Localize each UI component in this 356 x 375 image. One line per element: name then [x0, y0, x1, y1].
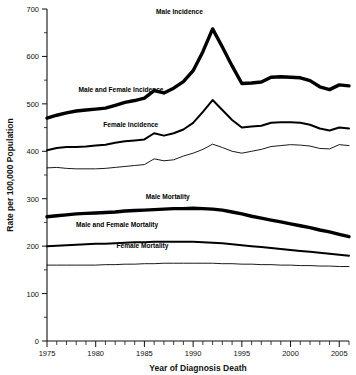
y-tick-label: 400: [26, 147, 39, 156]
series-label-male-and-female-incidence: Male and Female Incidence: [79, 86, 164, 93]
chart-container: 0100200300400500600700197519801985199019…: [0, 0, 356, 375]
series-line-female-mortality: [47, 263, 349, 266]
series-label-female-incidence: Female Incidence: [103, 121, 158, 128]
line-chart: 0100200300400500600700197519801985199019…: [0, 0, 356, 375]
x-tick-label: 1975: [39, 349, 56, 358]
series-label-male-and-female-mortality: Male and Female Mortality: [76, 221, 158, 229]
series-line-male-incidence: [47, 29, 349, 118]
x-axis-title: Year of Diagnosis Death: [149, 363, 246, 373]
y-tick-label: 0: [35, 337, 39, 346]
y-tick-label: 100: [26, 290, 39, 299]
y-tick-label: 700: [26, 5, 39, 14]
series-label-female-mortality: Female Mortality: [116, 242, 168, 250]
series-line-male-and-female-incidence: [47, 100, 349, 150]
x-tick-label: 1990: [185, 349, 202, 358]
y-tick-label: 600: [26, 52, 39, 61]
x-tick-label: 1980: [87, 349, 104, 358]
x-tick-label: 2000: [282, 349, 299, 358]
series-line-male-and-female-mortality: [47, 242, 349, 256]
series-line-female-incidence: [47, 144, 349, 169]
x-tick-label: 1985: [136, 349, 153, 358]
y-tick-label: 200: [26, 242, 39, 251]
series-label-male-mortality: Male Mortality: [146, 193, 190, 201]
x-tick-label: 2005: [331, 349, 348, 358]
y-axis-title: Rate per 100,000 Population: [5, 118, 15, 231]
y-tick-label: 300: [26, 195, 39, 204]
x-tick-label: 1995: [233, 349, 250, 358]
y-tick-label: 500: [26, 100, 39, 109]
series-label-male-incidence: Male Incidence: [156, 8, 203, 15]
